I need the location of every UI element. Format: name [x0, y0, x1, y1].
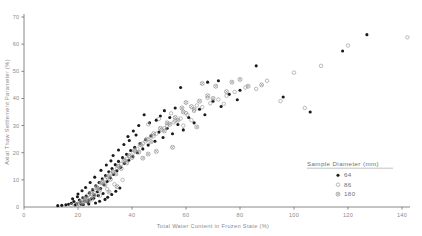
data-point: [217, 98, 221, 102]
data-point: [179, 86, 182, 89]
data-point: [102, 192, 105, 195]
data-point: [122, 143, 125, 146]
data-point: [126, 135, 129, 138]
chart-canvas: 020406080100120140102030405060700Total W…: [0, 0, 422, 236]
legend-title: Sample Diameter (mm): [307, 160, 379, 167]
data-point: [168, 116, 171, 119]
data-point: [84, 186, 87, 189]
y-axis-title: Axial Thaw Settlement Parameter (%): [4, 59, 10, 165]
data-point: [206, 81, 209, 84]
data-point: [94, 201, 97, 204]
y-tick-label: 50: [13, 68, 20, 74]
data-point: [346, 44, 350, 48]
data-point: [203, 113, 206, 116]
data-point: [182, 124, 186, 128]
x-tick-label: 0: [22, 212, 25, 218]
data-point: [254, 87, 258, 91]
x-tick-label: 40: [129, 212, 136, 218]
x-tick-label: 100: [289, 212, 299, 218]
data-point: [112, 154, 115, 157]
data-point: [303, 106, 307, 110]
data-point: [162, 136, 165, 139]
data-point: [56, 204, 59, 207]
data-point: [89, 181, 92, 184]
data-point: [174, 106, 177, 109]
data-point: [309, 110, 312, 113]
data-points-group: [56, 33, 409, 207]
data-point: [106, 196, 109, 199]
data-point: [169, 112, 173, 116]
scatter-chart-figure: 020406080100120140102030405060700Total W…: [0, 0, 422, 236]
data-point: [99, 169, 102, 172]
x-tick-label: 120: [343, 212, 353, 218]
series-64: [56, 33, 368, 207]
data-point: [137, 124, 140, 127]
data-point: [157, 117, 161, 121]
data-point: [265, 79, 269, 83]
data-point: [114, 190, 117, 193]
legend-item-180[interactable]: 180: [336, 190, 356, 197]
data-point: [255, 64, 258, 67]
y-tick-label: 30: [13, 123, 20, 129]
data-point: [236, 98, 239, 101]
data-point: [147, 144, 150, 147]
legend-item-64[interactable]: 64: [336, 171, 351, 178]
data-point: [193, 121, 196, 124]
y-tick-label: 70: [13, 14, 20, 20]
data-point: [176, 123, 179, 126]
data-point: [117, 148, 120, 151]
data-point: [220, 105, 223, 108]
data-point: [217, 79, 220, 82]
data-point: [222, 102, 226, 106]
data-point: [71, 197, 74, 200]
x-tick-label: 20: [75, 212, 82, 218]
data-point: [163, 109, 166, 112]
data-point: [76, 195, 79, 198]
data-point: [238, 89, 241, 92]
legend-item-86[interactable]: 86: [336, 181, 352, 188]
data-point: [93, 176, 96, 179]
data-point: [98, 200, 101, 203]
data-point: [135, 134, 138, 137]
data-point: [406, 36, 410, 40]
data-point: [143, 113, 146, 116]
data-point: [105, 163, 108, 166]
y-tick-label: 0: [16, 204, 19, 210]
y-tick-label: 40: [13, 95, 20, 101]
data-point: [81, 189, 84, 192]
chart-legend: Sample Diameter (mm)6486180: [307, 160, 393, 197]
data-point: [72, 200, 75, 203]
data-point: [365, 33, 368, 36]
data-point: [76, 192, 79, 195]
series-86: [70, 36, 410, 208]
x-tick-label: 60: [183, 212, 190, 218]
data-point: [279, 99, 283, 103]
data-point: [190, 118, 194, 122]
data-point: [336, 183, 340, 187]
data-point: [292, 71, 296, 75]
data-point: [117, 160, 120, 163]
y-tick-label: 60: [13, 41, 20, 47]
data-point: [128, 139, 131, 142]
data-point: [341, 49, 344, 52]
data-point: [319, 64, 323, 68]
legend-item-label: 180: [344, 190, 356, 197]
data-point: [233, 90, 237, 94]
data-point: [336, 174, 339, 177]
data-point: [182, 128, 185, 131]
legend-item-label: 86: [344, 181, 352, 188]
legend-item-label: 64: [344, 171, 352, 178]
data-point: [64, 203, 67, 206]
data-point: [141, 147, 144, 150]
data-point: [153, 140, 156, 143]
data-point: [225, 94, 229, 98]
x-tick-label: 140: [397, 212, 407, 218]
data-point: [60, 204, 63, 207]
y-tick-label: 20: [13, 150, 20, 156]
data-point: [132, 129, 135, 132]
data-point: [200, 105, 204, 109]
series-180: [77, 77, 263, 206]
data-point: [209, 102, 213, 106]
data-point: [195, 104, 199, 108]
y-tick-label: 10: [13, 177, 20, 183]
